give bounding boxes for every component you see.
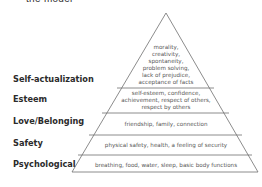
description-love-belonging: friendship, family, connection xyxy=(106,121,226,128)
description-esteem: self-esteem, confidence, achievement, re… xyxy=(116,90,216,111)
level-label-psychological: Psychological xyxy=(13,159,76,169)
level-label-esteem: Esteem xyxy=(13,94,47,104)
level-label-love-belonging: Love/Belonging xyxy=(13,116,84,126)
description-psychological: breathing, food, water, sleep, basic bod… xyxy=(86,162,246,169)
level-label-safety: Safety xyxy=(13,138,43,148)
description-safety: physical safety, health, a feeling of se… xyxy=(96,142,236,149)
description-self-actualization: morality, creativity, spontaneity, probl… xyxy=(126,44,206,86)
level-label-self-actualization: Self-actualization xyxy=(13,74,94,84)
